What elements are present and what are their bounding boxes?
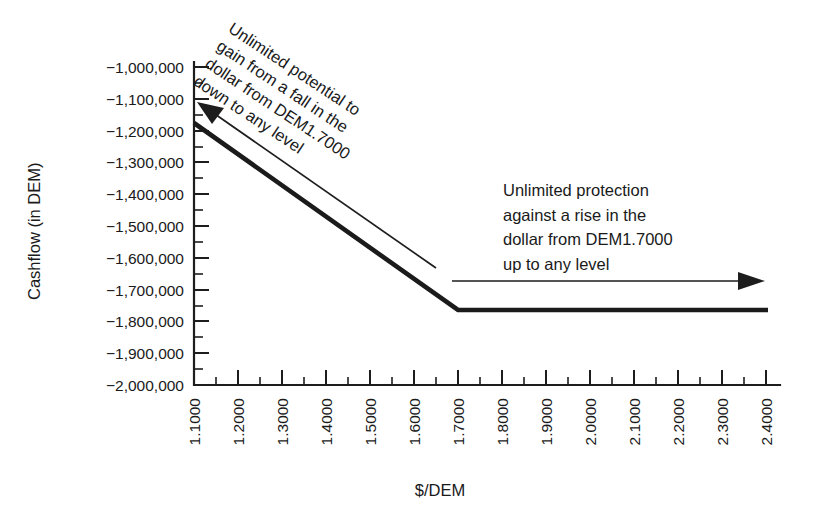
- right-annotation-line-1: Unlimited protection: [503, 178, 773, 203]
- y-tick-label: −1,000,000: [106, 59, 184, 76]
- right-annotation-line-2: against a rise in the: [503, 203, 773, 228]
- x-tick-label: 1.1000: [186, 398, 203, 446]
- y-tick-label: −1,700,000: [106, 282, 184, 299]
- payoff-chart-figure: −1,000,000 −1,100,000 −1,200,000 −1,300,…: [0, 0, 814, 525]
- y-tick-label: −1,400,000: [106, 186, 184, 203]
- y-tick-label: −2,000,000: [106, 377, 184, 394]
- x-tick-label: 1.5000: [362, 398, 379, 446]
- y-axis-title: Cashflow (in DEM): [25, 162, 43, 300]
- x-tick-label: 1.2000: [230, 398, 247, 446]
- y-tick-label: −1,500,000: [106, 218, 184, 235]
- y-axis-tick-labels: −1,000,000 −1,100,000 −1,200,000 −1,300,…: [106, 59, 184, 394]
- y-tick-label: −1,900,000: [106, 345, 184, 362]
- x-tick-label: 2.3000: [714, 398, 731, 446]
- x-axis-minor-ticks: [216, 377, 744, 385]
- right-annotation-line-3: dollar from DEM1.7000: [503, 227, 773, 252]
- y-tick-label: −1,800,000: [106, 313, 184, 330]
- x-tick-label: 1.6000: [406, 398, 423, 446]
- x-tick-label: 2.2000: [670, 398, 687, 446]
- right-annotation-text: Unlimited protection against a rise in t…: [503, 178, 773, 276]
- y-tick-label: −1,600,000: [106, 250, 184, 267]
- x-axis-title: $/DEM: [415, 481, 465, 499]
- x-tick-label: 1.3000: [274, 398, 291, 446]
- x-tick-label: 1.9000: [538, 398, 555, 446]
- x-tick-label: 1.4000: [318, 398, 335, 446]
- right-annotation-line-4: up to any level: [503, 252, 773, 277]
- y-tick-label: −1,200,000: [106, 123, 184, 140]
- x-tick-label: 2.4000: [758, 398, 775, 446]
- x-tick-label: 2.1000: [626, 398, 643, 446]
- x-tick-label: 1.8000: [494, 398, 511, 446]
- x-axis-tick-labels: 1.1000 1.2000 1.3000 1.4000 1.5000 1.600…: [186, 398, 775, 446]
- x-tick-label: 1.7000: [450, 398, 467, 446]
- y-tick-label: −1,100,000: [106, 91, 184, 108]
- x-tick-label: 2.0000: [582, 398, 599, 446]
- y-tick-label: −1,300,000: [106, 154, 184, 171]
